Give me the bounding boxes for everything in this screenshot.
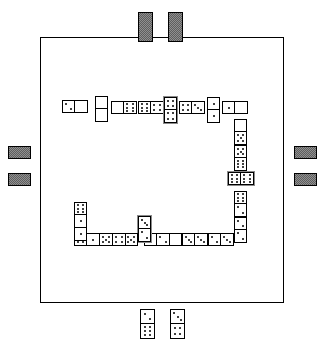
pip [132, 110, 134, 112]
pip [144, 330, 146, 332]
domino-left-2-half-a [75, 203, 86, 215]
pip [146, 103, 148, 105]
pip [167, 105, 169, 107]
pip [133, 241, 135, 243]
pip [200, 239, 202, 241]
domino-right-3-half-b [241, 173, 253, 184]
tile-back-top-1 [138, 12, 153, 42]
tile-back-right-1 [294, 146, 317, 159]
domino-top-8-half-b [235, 102, 247, 113]
pip [141, 110, 143, 112]
pip [237, 163, 239, 165]
pip [172, 112, 174, 114]
pip [159, 104, 161, 106]
domino-bot-2-half-b [195, 234, 207, 245]
pip [213, 115, 215, 117]
tile-back-right-2 [294, 173, 317, 186]
pip [177, 316, 179, 318]
pip [159, 236, 161, 238]
pip [102, 236, 104, 238]
pip [167, 118, 169, 120]
pip [240, 137, 242, 139]
pip [237, 200, 239, 202]
pip [144, 326, 146, 328]
pip [190, 241, 192, 243]
domino-top-5 [164, 97, 177, 123]
pip [130, 239, 132, 241]
pip [149, 326, 151, 328]
domino-top-1 [62, 100, 88, 113]
domino-right-2 [234, 145, 247, 171]
domino-left-2-half-b [75, 215, 86, 227]
pip [65, 103, 67, 105]
domino-top-2-half-a [96, 97, 107, 109]
domino-right-1 [234, 119, 247, 145]
pip [188, 239, 190, 241]
domino-left-2 [74, 202, 87, 228]
pip [115, 236, 117, 238]
pip [126, 110, 128, 112]
tile-back-left-1 [8, 146, 31, 159]
pip [141, 231, 143, 233]
pip [141, 103, 143, 105]
pip [228, 107, 230, 109]
pip [172, 118, 174, 120]
pip [132, 107, 134, 109]
pip [200, 109, 202, 111]
pip [226, 239, 228, 241]
hand-tile-2[interactable] [170, 309, 185, 339]
domino-top-1-half-b [75, 101, 87, 112]
pip [237, 166, 239, 168]
domino-right-4 [234, 191, 247, 217]
domino-right-1-half-b [235, 132, 246, 144]
pip [121, 236, 123, 238]
hand-tile-1[interactable] [140, 309, 155, 339]
pip [149, 330, 151, 332]
domino-bot-4-half-b [157, 234, 169, 245]
pip [216, 241, 218, 243]
pip [153, 104, 155, 106]
pip [237, 206, 239, 208]
pip [231, 174, 233, 176]
pip [127, 241, 129, 243]
pip [82, 204, 84, 206]
domino-bot-9-half-b [87, 234, 99, 245]
pip [211, 236, 213, 238]
pip [127, 236, 129, 238]
pip [149, 334, 151, 336]
pip [82, 211, 84, 213]
pip [231, 178, 233, 180]
pip [179, 327, 181, 329]
domino-top-2 [95, 96, 108, 122]
pip [149, 318, 151, 320]
pip [108, 236, 110, 238]
pip [146, 107, 148, 109]
pip [82, 241, 84, 243]
domino-top-4-half-a [139, 102, 151, 113]
pip [236, 178, 238, 180]
dominoes-game-root [0, 0, 325, 343]
pip [165, 241, 167, 243]
domino-top-6-half-a [180, 102, 192, 113]
pip [144, 313, 146, 315]
pip [242, 212, 244, 214]
domino-right-1-half-a [235, 120, 246, 132]
domino-bot-3-half-b [169, 234, 181, 245]
domino-bot-5-half-a [139, 217, 150, 229]
pip [187, 104, 189, 106]
pip [144, 222, 146, 224]
pip [243, 174, 245, 176]
pip [187, 109, 189, 111]
pip [194, 104, 196, 106]
pip [237, 193, 239, 195]
domino-right-4-half-a [235, 192, 246, 204]
pip [213, 103, 215, 105]
pip [229, 241, 231, 243]
pip [231, 181, 233, 183]
pip [242, 225, 244, 227]
domino-right-5-half-a [235, 218, 246, 230]
pip [242, 153, 244, 155]
pip [237, 232, 239, 234]
pip [133, 236, 135, 238]
tile-back-top-2 [168, 12, 183, 42]
